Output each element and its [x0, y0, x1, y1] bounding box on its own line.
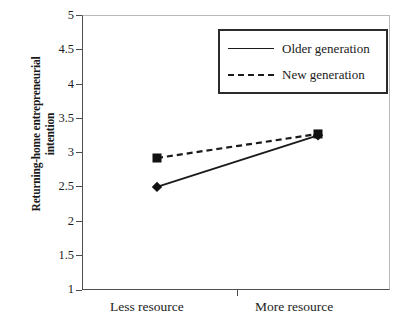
legend-label-new-generation: New generation — [282, 67, 365, 83]
y-tick-label-3: 3 — [34, 145, 74, 160]
legend-label-older-generation: Older generation — [282, 41, 370, 57]
legend-item-new-generation: New generation — [228, 63, 365, 87]
y-tick-label-4-5: 4.5 — [34, 42, 74, 57]
y-tick-label-4: 4 — [34, 77, 74, 92]
y-tick-label-1: 1 — [34, 282, 74, 297]
y-tick-label-1-5: 1.5 — [34, 248, 74, 263]
x-tick-label-more-resource: More resource — [255, 299, 333, 315]
y-tick-label-2-5: 2.5 — [34, 179, 74, 194]
x-axis-center-tick — [237, 290, 238, 296]
x-tick-label-less-resource: Less resource — [110, 299, 184, 315]
legend-dashed-line-icon — [228, 69, 274, 81]
legend-solid-line-icon — [228, 43, 274, 55]
y-tick-label-2: 2 — [34, 214, 74, 229]
legend-item-older-generation: Older generation — [228, 37, 370, 61]
y-tick-label-3-5: 3.5 — [34, 111, 74, 126]
y-tick-label-5: 5 — [34, 8, 74, 23]
chart-container: Returning-home entrepreneurial intention… — [0, 0, 417, 331]
legend: Older generation New generation — [218, 29, 388, 94]
y-tick-mark-1 — [76, 290, 82, 291]
y-axis-title: Returning-home entrepreneurial intention — [29, 0, 57, 269]
